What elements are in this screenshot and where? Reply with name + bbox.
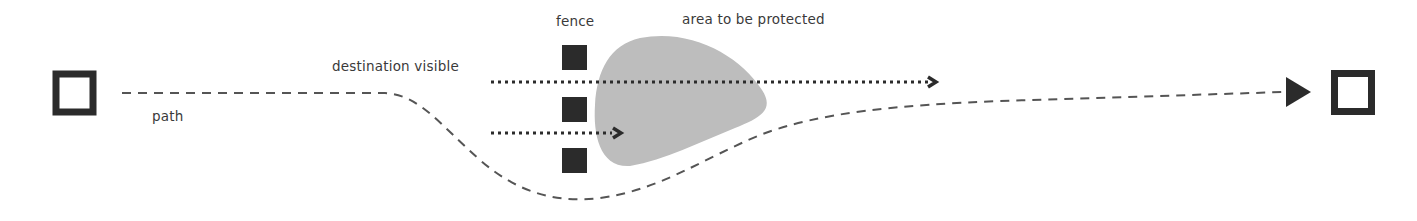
- protected-area-shape: [595, 36, 767, 166]
- start-square-icon: [56, 74, 93, 112]
- label-path: path: [152, 108, 184, 124]
- label-fence: fence: [556, 13, 594, 29]
- fence-post-icon: [562, 148, 587, 173]
- label-destination-visible: destination visible: [332, 58, 459, 74]
- fence-post-icon: [562, 97, 587, 122]
- fence-post-icon: [562, 45, 587, 70]
- diagram-canvas: path destination visible fence area to b…: [0, 0, 1417, 221]
- sight-line-through-chevron-icon: [928, 77, 936, 87]
- path-arrowhead-icon: [1286, 77, 1311, 107]
- destination-square-icon: [1335, 74, 1372, 112]
- label-area-to-be-protected: area to be protected: [682, 11, 825, 27]
